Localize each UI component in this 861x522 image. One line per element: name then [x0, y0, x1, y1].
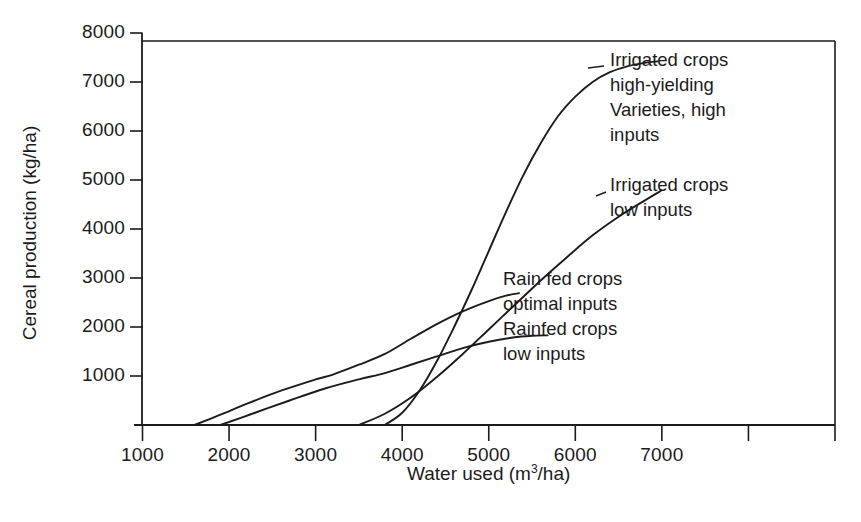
annotation-line: low inputs [503, 341, 617, 366]
x-axis-title-tail: /ha) [538, 463, 571, 484]
plot-frame [134, 33, 835, 425]
annotation-line: Rainfed crops [503, 316, 617, 341]
x-axis-title-base: Water used (m [407, 463, 531, 484]
annotation-line: Irrigated crops [610, 172, 728, 197]
annotation-line: optimal inputs [503, 291, 622, 316]
annotation-line: Varieties, high [610, 97, 728, 122]
y-axis-ticks [130, 33, 143, 376]
x-axis-title-exponent: 3 [531, 462, 538, 476]
annotation-line: low inputs [610, 197, 728, 222]
annotation-irrigated-high-yielding: Irrigated cropshigh-yieldingVarieties, h… [610, 47, 728, 147]
x-tick-label: 1000 [113, 444, 173, 466]
annotation-leader-lines [588, 66, 606, 196]
annotation-rainfed-low-inputs: Rainfed cropslow inputs [503, 316, 617, 366]
x-tick-label: 3000 [286, 444, 346, 466]
y-tick-label: 8000 [60, 21, 125, 43]
series-line-2 [194, 293, 519, 425]
y-tick-label: 1000 [60, 364, 125, 386]
annotation-line: high-yielding [610, 72, 728, 97]
chart-figure: Cereal production (kg/ha) 10002000300040… [0, 0, 861, 522]
y-tick-label: 5000 [60, 168, 125, 190]
annotation-line: inputs [610, 122, 728, 147]
annotation-line: Irrigated crops [610, 47, 728, 72]
annotation-rainfed-optimal-inputs: Rain fed cropsoptimal inputs [503, 266, 622, 316]
x-axis-ticks [143, 425, 836, 441]
y-tick-label: 2000 [60, 315, 125, 337]
annotation-line: Rain fed crops [503, 266, 622, 291]
data-series-group [194, 61, 661, 425]
y-tick-label: 6000 [60, 119, 125, 141]
y-axis-title: Cereal production (kg/ha) [19, 126, 40, 340]
y-tick-label: 7000 [60, 70, 125, 92]
annotation-irrigated-low-inputs: Irrigated cropslow inputs [610, 172, 728, 222]
series-line-3 [220, 335, 547, 425]
x-axis-title: Water used (m3/ha) [407, 462, 570, 485]
x-tick-label: 7000 [632, 444, 692, 466]
y-tick-label: 3000 [60, 266, 125, 288]
y-tick-label: 4000 [60, 217, 125, 239]
x-tick-label: 2000 [199, 444, 259, 466]
